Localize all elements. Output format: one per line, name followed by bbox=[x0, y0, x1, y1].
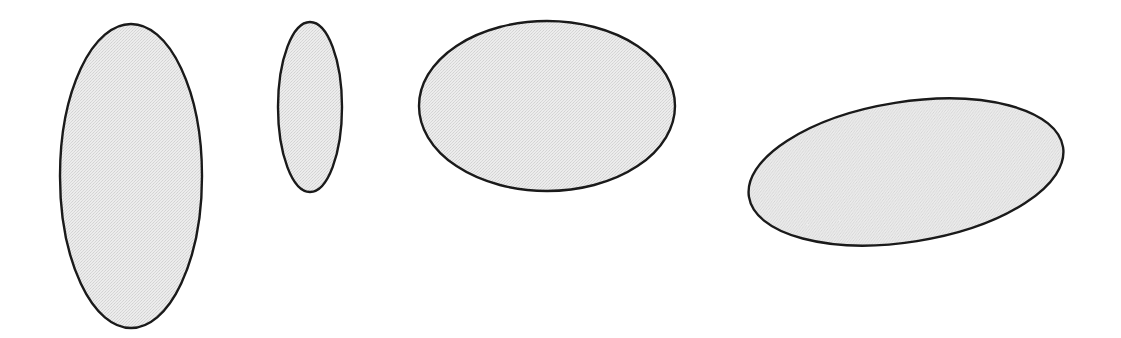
ellipse-tall-narrow bbox=[60, 24, 202, 328]
shape-group-ellipse-wide-horizontal bbox=[419, 21, 675, 191]
shape-group-ellipse-small-narrow bbox=[278, 22, 342, 192]
shape-group-ellipse-tall-narrow bbox=[60, 24, 202, 328]
ellipse-small-narrow bbox=[278, 22, 342, 192]
ellipse-wide-horizontal bbox=[419, 21, 675, 191]
figure-canvas bbox=[0, 0, 1121, 338]
ellipses-figure-svg bbox=[0, 0, 1121, 338]
